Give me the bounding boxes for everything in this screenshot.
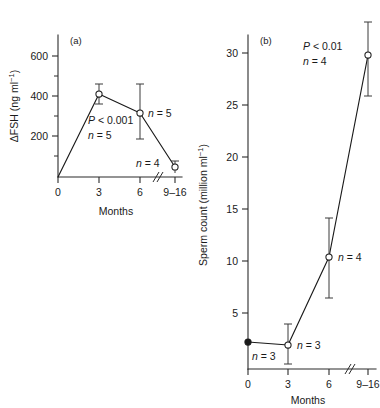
y-tick-label-a-400: 400 xyxy=(30,90,48,102)
x-axis-title-b: Months xyxy=(291,394,325,406)
n-label-b-0: n = 3 xyxy=(252,350,276,362)
y-ticks-b xyxy=(242,53,248,313)
n-label-a-3: n = 5 xyxy=(88,129,112,141)
x-axis-title-a: Months xyxy=(99,205,133,217)
n-label-b-6: n = 4 xyxy=(338,251,362,263)
y-axis-title-a-main: ΔFSH (ng ml xyxy=(8,82,20,142)
y-axis-title-b-sup: −1 xyxy=(196,148,205,157)
svg-text:Sperm count (million ml−1): Sperm count (million ml−1) xyxy=(196,144,209,266)
y-tick-label-b-30: 30 xyxy=(226,47,238,59)
x-tick-label-b-0: 0 xyxy=(245,378,251,390)
y-tick-label-a-200: 200 xyxy=(30,130,48,142)
x-tick-label-a-916: 9–16 xyxy=(163,186,187,198)
y-tick-label-b-25: 25 xyxy=(226,99,238,111)
panel-b-svg: 30 25 20 15 10 5 0 3 6 9–16 Months xyxy=(190,0,380,408)
data-point-a-6 xyxy=(137,110,143,116)
y-axis-title-a: ΔFSH (ng ml−1) xyxy=(7,70,20,142)
y-tick-label-a-600: 600 xyxy=(30,50,48,62)
figure-container: 600 400 200 0 3 6 9–16 Months xyxy=(0,0,380,408)
data-point-a-3 xyxy=(96,91,102,97)
x-tick-label-b-6: 6 xyxy=(326,378,332,390)
y-axis-title-b-tail: ) xyxy=(197,144,209,148)
y-axis-title-a-tail: ) xyxy=(8,70,20,74)
p-value-b: P < 0.01 xyxy=(303,40,343,52)
chart-panel-a: 600 400 200 0 3 6 9–16 Months xyxy=(0,0,190,408)
data-point-b-6 xyxy=(326,254,332,260)
x-tick-label-b-916: 9–16 xyxy=(356,378,380,390)
data-point-a-last xyxy=(172,164,178,170)
x-tick-label-b-3: 3 xyxy=(285,378,291,390)
panel-a-svg: 600 400 200 0 3 6 9–16 Months xyxy=(0,0,190,408)
y-axis-title-a-sup: −1 xyxy=(7,73,16,82)
panel-label-a: (a) xyxy=(70,35,82,46)
n-label-b-3: n = 3 xyxy=(297,339,321,351)
chart-panel-b: 30 25 20 15 10 5 0 3 6 9–16 Months xyxy=(190,0,380,408)
x-tick-label-a-6: 6 xyxy=(137,186,143,198)
data-point-b-3 xyxy=(285,342,291,348)
y-ticks-a xyxy=(52,56,58,156)
data-point-b-0 xyxy=(245,339,251,345)
error-bar-b-last xyxy=(364,22,372,96)
y-tick-label-b-15: 15 xyxy=(226,203,238,215)
data-point-b-last xyxy=(365,52,371,58)
p-value-a: P < 0.001 xyxy=(88,114,133,126)
y-tick-label-b-5: 5 xyxy=(232,307,238,319)
y-tick-label-b-10: 10 xyxy=(226,255,238,267)
y-axis-title-b: Sperm count (million ml−1) xyxy=(196,144,209,266)
n-label-a-6: n = 5 xyxy=(148,107,172,119)
svg-text:ΔFSH (ng ml−1): ΔFSH (ng ml−1) xyxy=(7,70,20,142)
y-tick-label-b-20: 20 xyxy=(226,151,238,163)
n-label-b-last: n = 4 xyxy=(303,55,327,67)
data-line-b xyxy=(248,55,368,345)
y-axis-title-b-main: Sperm count (million ml xyxy=(197,156,209,266)
x-tick-label-a-0: 0 xyxy=(55,186,61,198)
x-tick-label-a-3: 3 xyxy=(96,186,102,198)
n-label-a-last: n = 4 xyxy=(136,157,160,169)
panel-label-b: (b) xyxy=(260,35,272,46)
